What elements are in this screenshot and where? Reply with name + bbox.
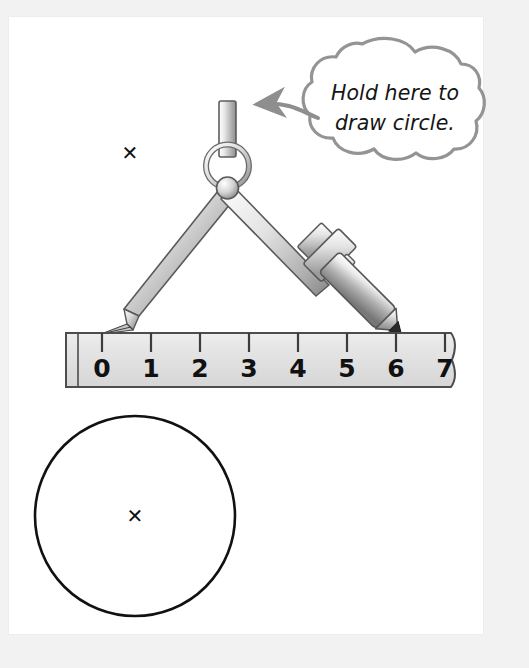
ruler-label-0: 0 (93, 354, 110, 383)
center-point-mark: ✕ (122, 141, 139, 165)
ruler-label-2: 2 (191, 354, 208, 383)
needle-leg (101, 186, 235, 334)
pencil-leg (221, 186, 412, 344)
callout-line-2: draw circle. (335, 111, 455, 135)
ruler-label-5: 5 (338, 354, 355, 383)
drawn-circle-center-mark: ✕ (127, 504, 144, 528)
ruler-label-7: 7 (436, 354, 453, 383)
compass-pivot (217, 177, 239, 199)
illustration-stage: Hold here to draw circle. ✕ (0, 0, 529, 668)
callout-line-1: Hold here to (331, 81, 459, 105)
hold-here-callout: Hold here to draw circle. (262, 38, 484, 159)
needle-leg-body (124, 186, 235, 316)
ruler-label-3: 3 (240, 354, 257, 383)
compass-illustration: Hold here to draw circle. ✕ (0, 0, 529, 668)
ruler-label-6: 6 (387, 354, 404, 383)
ruler-label-1: 1 (142, 354, 159, 383)
compass-handle (219, 101, 236, 157)
ruler: 0 1 2 3 4 5 6 7 (66, 333, 455, 387)
pencil (319, 252, 412, 345)
pencil-barrel (319, 252, 396, 329)
drawn-circle: ✕ (35, 416, 235, 616)
ruler-label-4: 4 (289, 354, 306, 383)
